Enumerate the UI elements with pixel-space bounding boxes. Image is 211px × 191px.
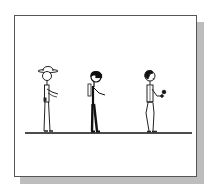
head: [43, 72, 52, 81]
hat-crown-icon: [43, 67, 53, 72]
figure-with-hat: [38, 67, 58, 132]
figure-with-goggles: [88, 72, 105, 132]
held-object-icon: [162, 90, 166, 94]
figure-with-object: [145, 70, 166, 131]
goggles-icon: [96, 75, 102, 78]
comic-scene: [0, 0, 211, 191]
